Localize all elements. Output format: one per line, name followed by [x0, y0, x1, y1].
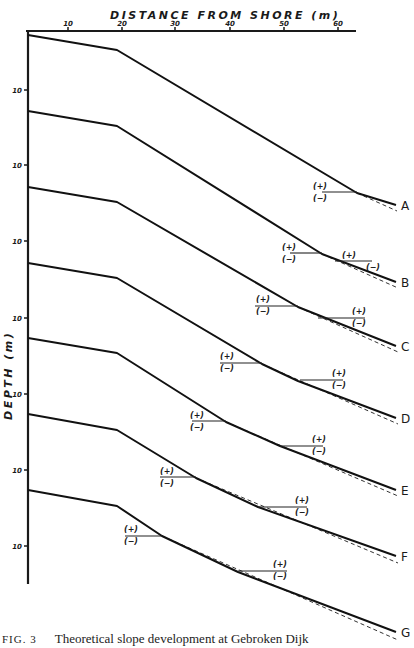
waterline-plus-label: (+)	[352, 307, 366, 316]
waterline-plus-label: (+)	[313, 182, 327, 191]
y-tick-label: 10	[12, 467, 22, 475]
waterline-plus-label: (+)	[342, 251, 356, 260]
profile-a: (+)(−)A	[28, 35, 410, 213]
waterline-plus-label: (+)	[295, 496, 309, 505]
profile-label: C	[401, 340, 409, 354]
profile-label: E	[401, 484, 409, 498]
profile-e: (+)(−)(+)(−)E	[28, 338, 409, 498]
waterline-minus-label: (−)	[282, 255, 296, 264]
waterline-minus-label: (−)	[352, 319, 366, 328]
waterline-minus-label: (−)	[295, 508, 309, 517]
profile-line	[28, 490, 396, 632]
x-tick-label: 50	[279, 20, 289, 28]
waterline-plus-label: (+)	[282, 243, 296, 252]
waterline-plus-label: (+)	[256, 295, 270, 304]
y-tick-label: 10	[12, 87, 22, 95]
profile-d: (+)(−)(+)(−)D	[28, 263, 410, 426]
waterline-minus-label: (−)	[160, 479, 174, 488]
y-axis-title: DEPTH (m)	[2, 331, 15, 420]
profile-line	[28, 187, 396, 346]
waterline-minus-label: (−)	[190, 423, 204, 432]
x-tick-label: 60	[333, 20, 343, 28]
waterline-plus-label: (+)	[124, 525, 138, 534]
waterline-plus-label: (+)	[220, 352, 234, 361]
waterline-plus-label: (+)	[332, 369, 346, 378]
waterline-minus-label: (−)	[312, 447, 326, 456]
waterline-minus-label: (−)	[313, 194, 327, 203]
waterline-minus-label: (−)	[220, 364, 234, 373]
profile-label: G	[401, 626, 410, 640]
figure-caption: FIG. 3Theoretical slope development at G…	[2, 631, 309, 647]
y-tick-label: 10	[12, 315, 22, 323]
profiles: (+)(−)A(+)(−)(+)(−)B(+)(−)(+)(−)C(+)(−)(…	[28, 35, 410, 640]
profile-label: F	[401, 550, 408, 564]
y-tick-label: 10	[12, 391, 22, 399]
y-tick-label: 10	[12, 162, 22, 170]
x-tick-label: 20	[117, 20, 127, 28]
profile-line	[28, 263, 396, 418]
y-axis-ticks: 10101010101010	[12, 87, 28, 551]
slope-profile-diagram: DISTANCE FROM SHORE (m) 102030405060 DEP…	[0, 0, 414, 648]
waterline-minus-label: (−)	[256, 307, 270, 316]
y-tick-label: 10	[12, 238, 22, 246]
profile-line	[28, 338, 396, 490]
waterline-minus-label: (−)	[124, 537, 138, 546]
profile-line	[28, 414, 396, 556]
x-tick-label: 40	[225, 20, 235, 28]
y-tick-label: 10	[12, 543, 22, 551]
waterline-plus-label: (+)	[190, 411, 204, 420]
profile-f: (+)(−)(+)(−)F	[28, 414, 408, 564]
waterline-minus-label: (−)	[366, 263, 380, 272]
profile-b: (+)(−)(+)(−)B	[28, 111, 409, 290]
waterline-minus-label: (−)	[332, 381, 346, 390]
profile-label: D	[401, 412, 410, 426]
figure-number: FIG. 3	[2, 633, 37, 645]
figure-caption-text: Theoretical slope development at Gebroke…	[55, 631, 309, 646]
waterline-plus-label: (+)	[312, 435, 326, 444]
x-tick-label: 10	[63, 20, 73, 28]
profile-c: (+)(−)(+)(−)C	[28, 187, 409, 354]
profile-label: B	[401, 276, 409, 290]
waterline-minus-label: (−)	[273, 572, 287, 581]
x-axis: DISTANCE FROM SHORE (m) 102030405060	[26, 9, 356, 31]
x-tick-label: 30	[170, 20, 180, 28]
profile-label: A	[401, 199, 410, 213]
waterline-plus-label: (+)	[160, 467, 174, 476]
profile-g: (+)(−)(+)(−)G	[28, 490, 410, 640]
y-axis: DEPTH (m) 10101010101010	[2, 30, 28, 584]
waterline-plus-label: (+)	[273, 560, 287, 569]
